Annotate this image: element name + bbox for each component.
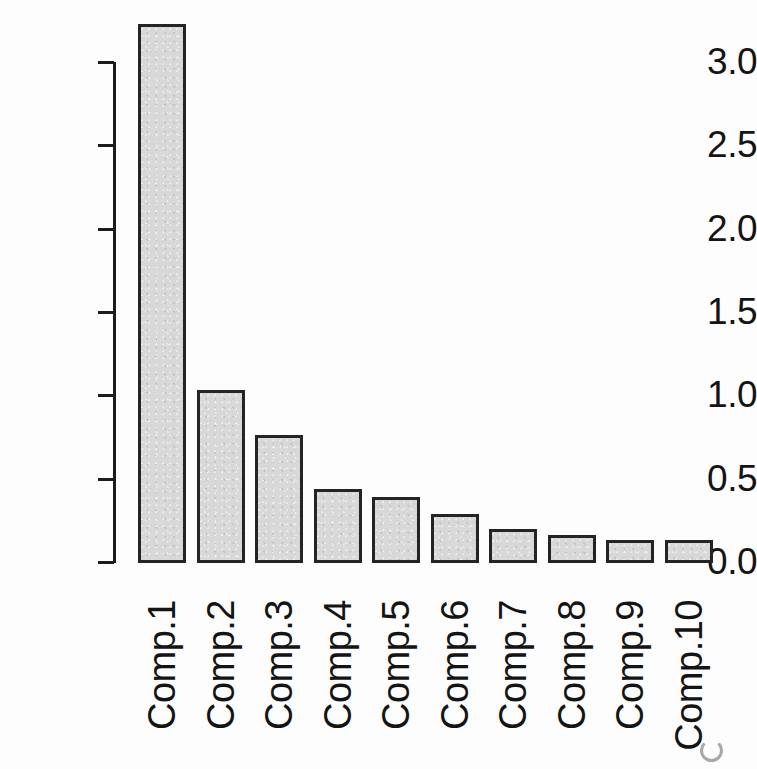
bar xyxy=(372,497,420,563)
scree-plot-figure: 0.00.51.01.52.02.53.0 Comp.1Comp.2Comp.3… xyxy=(0,0,757,769)
bar xyxy=(197,390,245,563)
bar xyxy=(431,514,479,563)
page-bleed-artifact xyxy=(0,743,757,769)
bar xyxy=(138,24,186,563)
bar xyxy=(548,535,596,563)
page-bleed-mark xyxy=(700,743,723,762)
bar xyxy=(606,540,654,563)
bar xyxy=(314,489,362,563)
bar xyxy=(489,529,537,563)
plot-area: 0.00.51.01.52.02.53.0 Comp.1Comp.2Comp.3… xyxy=(0,0,757,769)
bar xyxy=(665,540,713,563)
bar xyxy=(255,435,303,563)
